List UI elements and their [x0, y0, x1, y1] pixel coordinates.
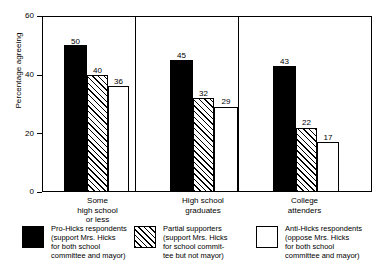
legend-label-pro-hicks: Pro-Hicks respondents (support Mrs. Hick…: [51, 224, 127, 260]
legend-swatch-open-icon: [256, 226, 278, 248]
bar-value-g0-s2: 36: [108, 78, 129, 86]
legend-item-anti-hicks[interactable]: Anti-Hicks respondents (oppose Mrs. Hick…: [256, 224, 374, 260]
bar-value-g2-s1: 22: [296, 119, 317, 127]
bar-value-g2-s2: 17: [317, 134, 339, 142]
bar-g1-s2[interactable]: [214, 107, 238, 192]
bar-g0-s1[interactable]: [87, 75, 108, 192]
bar-value-g1-s2: 29: [214, 98, 238, 106]
bar-g0-s0[interactable]: [64, 45, 87, 192]
legend-item-pro-hicks[interactable]: Pro-Hicks respondents (support Mrs. Hick…: [22, 224, 134, 260]
category-label-1: High school graduates: [163, 196, 243, 215]
bar-g1-s1[interactable]: [193, 98, 214, 192]
bar-value-g0-s0: 50: [64, 38, 87, 46]
bar-g1-s0[interactable]: [170, 60, 193, 192]
legend: Pro-Hicks respondents (support Mrs. Hick…: [22, 224, 374, 260]
legend-swatch-hatch-icon: [134, 226, 156, 248]
legend-item-partial-supporters[interactable]: Partial supporters (support Mrs. Hicks f…: [134, 224, 256, 260]
legend-label-partial-supporters: Partial supporters (support Mrs. Hicks f…: [163, 224, 228, 260]
bars-layer: 50 40 36 45 32 29 43 22 17: [42, 16, 372, 192]
bar-value-g2-s0: 43: [273, 58, 296, 66]
legend-swatch-solid-icon: [22, 226, 44, 248]
bar-g0-s2[interactable]: [108, 86, 129, 192]
category-label-2: College attenders: [267, 196, 342, 215]
y-tick-label-0: 0: [8, 188, 34, 196]
bar-g2-s0[interactable]: [273, 66, 296, 192]
y-tick-label-20: 20: [8, 130, 34, 138]
group-separator-2: [238, 16, 239, 192]
bar-value-g1-s0: 45: [170, 52, 193, 60]
y-tick-label-40: 40: [8, 71, 34, 79]
bar-g2-s1[interactable]: [296, 128, 317, 193]
group-separator-1: [135, 16, 136, 192]
bar-value-g1-s1: 32: [193, 90, 214, 98]
y-tick-mark-0: [37, 192, 42, 193]
bar-chart: Percentage agreeing 60 40 20 0 50 40 36 …: [0, 0, 384, 280]
category-label-0: Some high school or less: [60, 196, 135, 225]
bar-value-g0-s1: 40: [87, 67, 108, 75]
legend-label-anti-hicks: Anti-Hicks respondents (oppose Mrs. Hick…: [285, 224, 362, 260]
y-tick-label-60: 60: [8, 12, 34, 20]
bar-g2-s2[interactable]: [317, 142, 339, 192]
